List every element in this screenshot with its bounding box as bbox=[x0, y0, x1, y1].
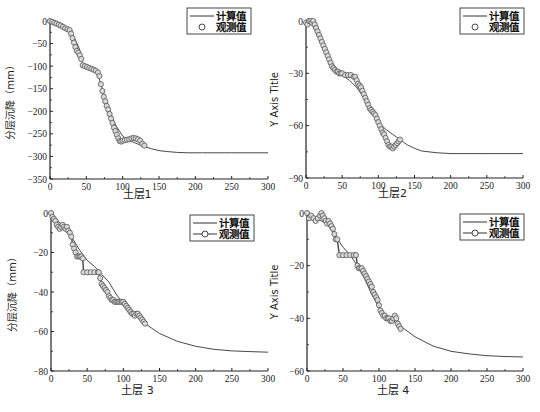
y-tick-label: −30 bbox=[288, 69, 303, 79]
legend: 计算值观测值 bbox=[190, 215, 254, 241]
legend-marker-icon bbox=[202, 231, 208, 237]
y-axis-label: 分层沉降（mm） bbox=[4, 60, 16, 139]
x-tick-label: 50 bbox=[82, 374, 92, 384]
observed-markers bbox=[304, 210, 403, 331]
y-axis-label: Y Axis Title bbox=[269, 265, 280, 321]
x-tick-label: 200 bbox=[444, 374, 459, 384]
subplot-1: 0501001502002503000−50−100−150−200−250−3… bbox=[4, 8, 275, 201]
legend: 计算值观测值 bbox=[460, 8, 524, 34]
subplot-4: 0501001502002503000−20−40−60土层 4Y Axis T… bbox=[269, 209, 530, 398]
y-tick-label: −300 bbox=[27, 152, 47, 162]
y-tick-label: 0 bbox=[42, 17, 47, 27]
y-tick-label: −250 bbox=[27, 129, 47, 139]
x-tick-label: 300 bbox=[516, 181, 531, 191]
x-tick-label: 0 bbox=[48, 182, 53, 192]
y-tick-label: 0 bbox=[298, 17, 303, 27]
x-tick-label: 300 bbox=[516, 374, 531, 384]
x-axis-label: 土层 4 bbox=[377, 384, 410, 397]
x-tick-label: 300 bbox=[261, 374, 276, 384]
legend-calc-text: 计算值 bbox=[489, 10, 520, 22]
y-tick-label: −60 bbox=[288, 121, 303, 131]
x-tick-label: 200 bbox=[188, 182, 203, 192]
y-tick-label: −200 bbox=[27, 107, 47, 117]
subplot-2: 0501001502002503000−30−60−90土层2Y Axis Ti… bbox=[269, 8, 530, 200]
x-tick-label: 250 bbox=[480, 374, 495, 384]
x-tick-label: 300 bbox=[261, 182, 276, 192]
y-axis-label: Y Axis Title bbox=[269, 72, 280, 128]
x-axis-label: 土层1 bbox=[123, 188, 152, 201]
x-tick-label: 0 bbox=[305, 374, 310, 384]
y-tick-label: 0 bbox=[299, 209, 304, 219]
legend: 计算值观测值 bbox=[187, 8, 251, 34]
y-tick-label: −40 bbox=[33, 288, 48, 298]
legend-obs-text: 观测值 bbox=[489, 227, 520, 239]
figure-canvas: 0501001502002503000−50−100−150−200−250−3… bbox=[0, 0, 540, 412]
legend-marker-icon bbox=[472, 230, 478, 236]
x-tick-label: 50 bbox=[82, 182, 92, 192]
y-tick-label: −50 bbox=[32, 39, 47, 49]
x-tick-label: 50 bbox=[338, 374, 348, 384]
x-tick-label: 250 bbox=[225, 374, 240, 384]
legend-obs-text: 观测值 bbox=[219, 228, 250, 240]
y-tick-label: 0 bbox=[43, 209, 48, 219]
x-tick-label: 250 bbox=[480, 181, 495, 191]
observed-markers bbox=[47, 18, 147, 148]
x-tick-label: 100 bbox=[372, 374, 387, 384]
x-tick-label: 50 bbox=[337, 181, 347, 191]
x-tick-label: 0 bbox=[49, 374, 54, 384]
legend-obs-text: 观测值 bbox=[216, 21, 247, 33]
legend-obs-text: 观测值 bbox=[489, 21, 520, 33]
legend-marker-icon bbox=[199, 24, 205, 30]
y-tick-label: −100 bbox=[27, 62, 47, 72]
x-tick-label: 150 bbox=[152, 182, 167, 192]
x-axis-label: 土层 3 bbox=[121, 384, 154, 397]
y-tick-label: −20 bbox=[289, 261, 304, 271]
legend-marker-icon bbox=[472, 24, 478, 30]
x-tick-label: 150 bbox=[152, 374, 167, 384]
x-tick-label: 200 bbox=[189, 374, 204, 384]
y-tick-label: −60 bbox=[289, 367, 304, 377]
y-tick-label: −40 bbox=[289, 314, 304, 324]
y-tick-label: −60 bbox=[33, 327, 48, 337]
calculated-line bbox=[50, 21, 268, 153]
x-tick-label: 150 bbox=[408, 374, 423, 384]
legend-calc-text: 计算值 bbox=[219, 217, 250, 229]
y-tick-label: −20 bbox=[33, 248, 48, 258]
subplot-3: 0501001502002503000−20−40−60−80土层 3分层沉降（… bbox=[6, 209, 275, 398]
y-tick-label: −90 bbox=[288, 174, 303, 184]
x-tick-label: 100 bbox=[116, 374, 131, 384]
observed-markers bbox=[48, 210, 147, 326]
x-tick-label: 150 bbox=[407, 181, 422, 191]
y-tick-label: −150 bbox=[27, 84, 47, 94]
x-tick-label: 0 bbox=[304, 181, 309, 191]
observed-line bbox=[307, 213, 401, 329]
y-tick-label: −80 bbox=[33, 367, 48, 377]
x-tick-label: 200 bbox=[444, 181, 459, 191]
x-axis-label: 土层2 bbox=[378, 187, 407, 200]
calculated-line bbox=[306, 21, 523, 154]
y-tick-label: −350 bbox=[27, 175, 47, 185]
legend-calc-text: 计算值 bbox=[489, 216, 520, 228]
legend-calc-text: 计算值 bbox=[216, 10, 247, 22]
y-axis-label: 分层沉降（mm） bbox=[6, 252, 18, 331]
legend: 计算值观测值 bbox=[460, 214, 524, 240]
x-tick-label: 250 bbox=[225, 182, 240, 192]
